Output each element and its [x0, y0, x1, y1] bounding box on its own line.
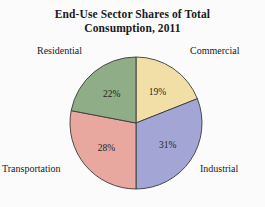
pie-value-label-transportation: 28% [98, 143, 116, 153]
pie-plot-area: 19%31%28%22% Residential Commercial Tran… [0, 0, 265, 207]
pie-value-label-commercial: 19% [149, 87, 167, 97]
category-label-industrial: Industrial [200, 163, 238, 175]
category-label-residential: Residential [37, 45, 82, 57]
pie-value-label-residential: 22% [103, 89, 121, 99]
category-label-commercial: Commercial [190, 45, 239, 57]
pie-slice-group [70, 57, 202, 189]
pie-value-label-industrial: 31% [159, 140, 177, 150]
pie-chart-figure: End-Use Sector Shares of Total Consumpti… [0, 0, 265, 207]
category-label-transportation: Transportation [2, 163, 61, 175]
pie-svg: 19%31%28%22% [0, 0, 265, 207]
